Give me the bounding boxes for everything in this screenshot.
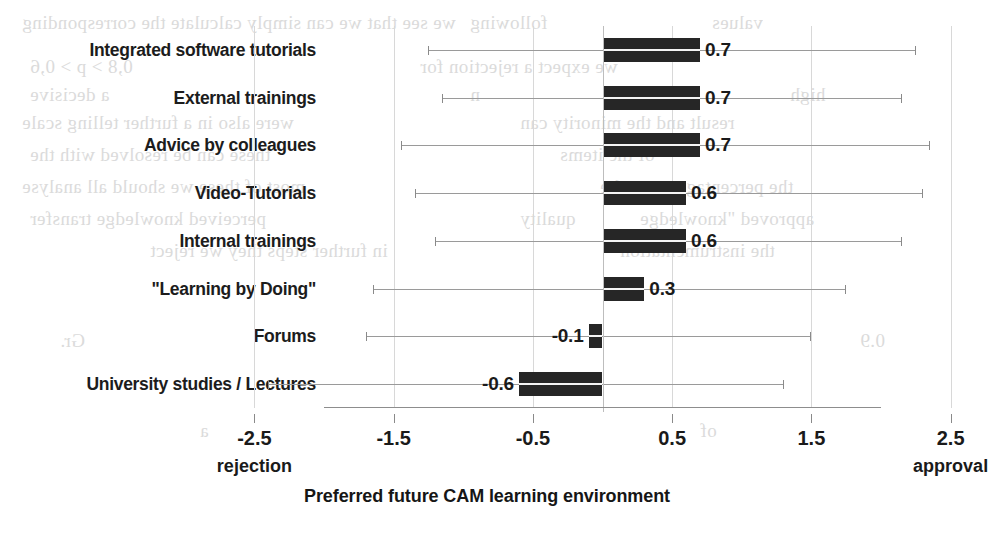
category-label: Internal trainings <box>179 230 316 251</box>
bar <box>603 86 700 110</box>
bar <box>603 38 700 62</box>
x-tick-label: -1.5 <box>376 427 410 450</box>
bar <box>589 324 603 348</box>
bar-value-label: 0.6 <box>691 182 717 204</box>
ghost-text: a <box>200 420 209 442</box>
category-row: Internal trainings <box>0 217 324 265</box>
x-tick-label: -2.5 <box>237 427 271 450</box>
x-axis-ticks: -2.5-1.5-0.50.51.52.5rejectionapproval <box>324 414 881 484</box>
x-tick-mark <box>672 414 673 423</box>
category-label: Forums <box>254 326 316 347</box>
x-tick-label: 2.5 <box>937 427 965 450</box>
category-label: Integrated software tutorials <box>89 39 316 60</box>
bar <box>519 372 603 396</box>
x-tick-mark <box>254 414 255 423</box>
category-row: Video-Tutorials <box>0 169 324 217</box>
category-axis-labels: Integrated software tutorialsExternal tr… <box>0 26 324 408</box>
zero-axis-line <box>603 26 604 412</box>
category-row: Forums <box>0 313 324 361</box>
bar <box>603 133 700 157</box>
category-row: Advice by colleagues <box>0 122 324 170</box>
x-tick-mark <box>811 414 812 423</box>
x-tick-label: 0.5 <box>658 427 686 450</box>
category-row: "Learning by Doing" <box>0 265 324 313</box>
x-tick-mark <box>951 414 952 423</box>
bar <box>603 181 687 205</box>
gridline <box>951 26 952 408</box>
bar-value-label: -0.1 <box>552 325 584 347</box>
plot-area: 0.70.70.70.60.60.3-0.1-0.6 <box>324 26 881 408</box>
x-axis-title: Preferred future CAM learning environmen… <box>0 486 974 507</box>
x-axis-line <box>324 407 881 408</box>
axis-end-label-rejection: rejection <box>217 456 292 477</box>
category-row: External trainings <box>0 74 324 122</box>
bar <box>603 277 645 301</box>
bar <box>603 229 687 253</box>
bar-value-label: -0.6 <box>482 373 514 395</box>
x-tick-mark <box>394 414 395 423</box>
x-tick-label: 1.5 <box>797 427 825 450</box>
category-label: External trainings <box>174 87 316 108</box>
bar-value-label: 0.6 <box>691 230 717 252</box>
gridline <box>254 26 255 408</box>
x-tick-mark <box>533 414 534 423</box>
bar-value-label: 0.7 <box>705 134 731 156</box>
category-row: Integrated software tutorials <box>0 26 324 74</box>
x-tick-label: -0.5 <box>516 427 550 450</box>
bar-value-label: 0.3 <box>649 278 675 300</box>
category-label: Advice by colleagues <box>144 135 316 156</box>
bar-value-label: 0.7 <box>705 39 731 61</box>
bar-value-label: 0.7 <box>705 87 731 109</box>
axis-end-label-approval: approval <box>913 456 988 477</box>
category-label: "Learning by Doing" <box>151 278 316 299</box>
